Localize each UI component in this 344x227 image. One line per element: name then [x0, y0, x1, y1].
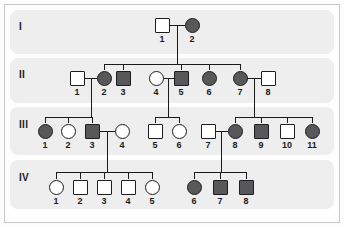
- individual-ii-3-male-affected[interactable]: [116, 71, 131, 86]
- pedigree-figure: IIIIIIIV 1212345678123456789101112345678: [0, 0, 344, 227]
- sibship-stem: [45, 117, 46, 123]
- individual-iii-4-female-unaffected[interactable]: [115, 124, 130, 139]
- individual-iv-6-female-affected[interactable]: [187, 180, 202, 195]
- individual-ii-2-female-affected[interactable]: [97, 71, 112, 86]
- individual-number-ii-6: 6: [199, 88, 219, 97]
- individual-ii-6-female-affected[interactable]: [202, 71, 217, 86]
- descent-line: [168, 78, 169, 117]
- individual-number-ii-7: 7: [230, 88, 250, 97]
- individual-ii-5-male-affected[interactable]: [174, 71, 189, 86]
- individual-number-iv-3: 3: [94, 197, 114, 206]
- individual-number-ii-5: 5: [171, 88, 191, 97]
- individual-iv-5-female-unaffected[interactable]: [145, 180, 160, 195]
- individual-ii-1-male-unaffected[interactable]: [70, 71, 85, 86]
- individual-ii-7-female-affected[interactable]: [233, 71, 248, 86]
- individual-number-iii-4: 4: [112, 141, 132, 150]
- individual-number-iv-7: 7: [210, 197, 230, 206]
- individual-number-iv-6: 6: [184, 197, 204, 206]
- descent-line: [221, 131, 222, 172]
- individual-i-1-male-unaffected[interactable]: [155, 18, 170, 33]
- individual-number-iii-3: 3: [82, 141, 102, 150]
- generation-label-ii: II: [19, 70, 25, 80]
- sibship-stem: [123, 64, 124, 70]
- individual-iii-8-female-affected[interactable]: [228, 124, 243, 139]
- individual-ii-4-female-unaffected[interactable]: [149, 71, 164, 86]
- descent-line: [107, 131, 108, 172]
- sibship-stem: [152, 172, 153, 179]
- sibship-stem: [56, 172, 57, 179]
- individual-iv-3-male-unaffected[interactable]: [97, 180, 112, 195]
- sibship-stem: [261, 117, 262, 123]
- sibship-bar: [104, 64, 240, 65]
- generation-label-i: I: [19, 22, 22, 32]
- individual-number-ii-2: 2: [94, 88, 114, 97]
- individual-number-iii-11: 11: [302, 141, 322, 150]
- individual-iii-11-female-affected[interactable]: [305, 124, 320, 139]
- individual-iii-1-female-affected[interactable]: [38, 124, 53, 139]
- individual-iv-4-male-unaffected[interactable]: [121, 180, 136, 195]
- individual-number-iv-1: 1: [46, 197, 66, 206]
- individual-number-ii-1: 1: [67, 88, 87, 97]
- sibship-stem: [312, 117, 313, 123]
- sibship-stem: [246, 172, 247, 179]
- individual-number-iii-5: 5: [145, 141, 165, 150]
- individual-number-iii-7: 7: [198, 141, 218, 150]
- individual-number-iii-10: 10: [277, 141, 297, 150]
- generation-label-iv: IV: [19, 173, 29, 183]
- sibship-stem: [68, 117, 69, 123]
- sibship-stem: [92, 117, 93, 123]
- sibship-stem: [179, 117, 180, 123]
- individual-iii-10-male-unaffected[interactable]: [280, 124, 295, 139]
- individual-number-iii-9: 9: [251, 141, 271, 150]
- descent-line: [177, 25, 178, 64]
- sibship-bar: [155, 117, 179, 118]
- individual-iv-7-male-affected[interactable]: [213, 180, 228, 195]
- generation-band-i: [10, 10, 334, 54]
- individual-iv-1-female-unaffected[interactable]: [49, 180, 64, 195]
- individual-number-iv-2: 2: [70, 197, 90, 206]
- sibship-stem: [128, 172, 129, 179]
- sibship-stem: [220, 172, 221, 179]
- sibship-stem: [80, 172, 81, 179]
- individual-iii-3-male-affected[interactable]: [85, 124, 100, 139]
- individual-number-i-1: 1: [152, 35, 172, 44]
- individual-number-i-2: 2: [182, 35, 202, 44]
- individual-i-2-female-affected[interactable]: [185, 18, 200, 33]
- individual-number-iii-1: 1: [35, 141, 55, 150]
- sibship-stem: [104, 64, 105, 70]
- sibship-stem: [155, 117, 156, 123]
- sibship-stem: [181, 64, 182, 70]
- sibship-stem: [235, 117, 236, 123]
- individual-number-iv-5: 5: [142, 197, 162, 206]
- sibship-stem: [194, 172, 195, 179]
- sibship-stem: [104, 172, 105, 179]
- individual-iii-6-female-unaffected[interactable]: [172, 124, 187, 139]
- individual-number-iii-2: 2: [58, 141, 78, 150]
- generation-label-iii: III: [19, 120, 28, 130]
- sibship-stem: [240, 64, 241, 70]
- individual-iii-7-male-unaffected[interactable]: [201, 124, 216, 139]
- individual-number-iii-6: 6: [169, 141, 189, 150]
- individual-iv-2-male-unaffected[interactable]: [73, 180, 88, 195]
- descent-line: [254, 78, 255, 117]
- individual-number-iv-8: 8: [236, 197, 256, 206]
- descent-line: [91, 78, 92, 117]
- sibship-bar: [235, 117, 312, 118]
- individual-number-ii-8: 8: [258, 88, 278, 97]
- individual-number-ii-4: 4: [146, 88, 166, 97]
- individual-ii-8-male-unaffected[interactable]: [261, 71, 276, 86]
- individual-iii-2-female-unaffected[interactable]: [61, 124, 76, 139]
- sibship-stem: [209, 64, 210, 70]
- individual-number-iii-8: 8: [225, 141, 245, 150]
- individual-number-ii-3: 3: [113, 88, 133, 97]
- individual-iv-8-male-affected[interactable]: [239, 180, 254, 195]
- individual-number-iv-4: 4: [118, 197, 138, 206]
- individual-iii-5-male-unaffected[interactable]: [148, 124, 163, 139]
- individual-iii-9-male-affected[interactable]: [254, 124, 269, 139]
- sibship-stem: [287, 117, 288, 123]
